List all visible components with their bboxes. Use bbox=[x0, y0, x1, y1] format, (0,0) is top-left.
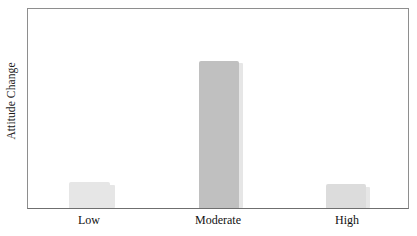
x-tick-label-low: Low bbox=[78, 213, 100, 228]
y-axis-label-text: Attitude Change bbox=[5, 62, 17, 139]
x-tick-label-high: High bbox=[335, 213, 359, 228]
plot-area bbox=[28, 9, 408, 208]
x-tick-label-moderate: Moderate bbox=[195, 213, 241, 228]
y-axis-label: Attitude Change bbox=[0, 0, 22, 201]
plot-frame bbox=[27, 8, 409, 209]
bar-high[interactable] bbox=[326, 184, 366, 208]
bar-moderate[interactable] bbox=[199, 61, 239, 208]
bar-low[interactable] bbox=[69, 182, 111, 208]
bar-chart-figure: Attitude Change Low Moderate High bbox=[0, 0, 417, 236]
